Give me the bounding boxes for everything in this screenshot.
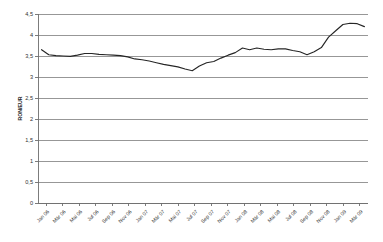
- x-tick-label: Mär 06: [51, 208, 67, 224]
- y-tick-label: 2: [30, 116, 33, 122]
- y-axis-title: RON/EUR: [17, 96, 23, 120]
- x-tick-label: Sep 06: [100, 208, 116, 224]
- y-tick-label: 2,5: [25, 95, 33, 101]
- y-tick-label: 1,5: [25, 137, 33, 143]
- x-tick-label: Nov 08: [315, 208, 331, 224]
- y-tick-labels: 00,511,522,533,544,5: [25, 11, 33, 206]
- x-tick-label: Jan 09: [332, 208, 347, 223]
- y-axis: [35, 14, 38, 203]
- x-tick-label: Nov 06: [117, 208, 133, 224]
- x-tick-label: Mai 08: [266, 208, 281, 223]
- x-tick-label: Jan 06: [35, 208, 50, 223]
- x-tick-label: Mai 06: [68, 208, 83, 223]
- y-axis-label: RON/EUR: [17, 96, 23, 120]
- y-tick-label: 1: [30, 158, 33, 164]
- x-tick-label: Mär 09: [348, 208, 364, 224]
- x-tick-labels: Jan 06Mär 06Mai 06Jul 06Sep 06Nov 06Jan …: [35, 208, 364, 224]
- x-axis: [38, 203, 368, 206]
- x-tick-label: Mär 08: [249, 208, 265, 224]
- line-chart: 00,511,522,533,544,5 Jan 06Mär 06Mai 06J…: [0, 0, 383, 242]
- x-tick-label: Nov 07: [216, 208, 232, 224]
- y-tick-label: 0: [30, 200, 33, 206]
- series-line-ron-eur: [42, 23, 365, 70]
- x-tick-label: Jul 07: [185, 208, 199, 222]
- x-tick-label: Sep 08: [298, 208, 314, 224]
- x-tick-label: Sep 07: [199, 208, 215, 224]
- x-tick-label: Jul 08: [284, 208, 298, 222]
- y-tick-label: 3: [30, 74, 33, 80]
- x-tick-label: Jul 06: [86, 208, 100, 222]
- gridlines: [38, 14, 368, 203]
- y-tick-label: 3,5: [25, 53, 33, 59]
- data-series-ron-eur: [42, 23, 365, 70]
- x-tick-label: Jan 07: [134, 208, 149, 223]
- y-tick-label: 0,5: [25, 179, 33, 185]
- x-tick-label: Mai 07: [167, 208, 182, 223]
- chart-container: 00,511,522,533,544,5 Jan 06Mär 06Mai 06J…: [0, 0, 383, 242]
- x-tick-label: Mär 07: [150, 208, 166, 224]
- y-tick-label: 4: [30, 32, 33, 38]
- x-tick-label: Jan 08: [233, 208, 248, 223]
- y-tick-label: 4,5: [25, 11, 33, 17]
